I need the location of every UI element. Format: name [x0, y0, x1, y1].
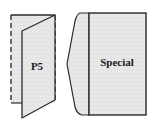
special-page: Special: [67, 13, 146, 115]
special-label: Special: [100, 56, 134, 68]
diagram-canvas: P5 Special: [0, 0, 155, 129]
special-flap: [67, 13, 89, 115]
p5-leaflet: P5: [11, 15, 55, 118]
p5-label: P5: [31, 60, 44, 72]
